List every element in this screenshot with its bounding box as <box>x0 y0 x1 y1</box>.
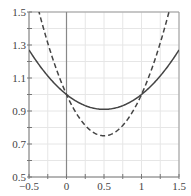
y-tick-label: 0.7 <box>12 138 26 150</box>
y-tick-label: 1.1 <box>12 72 26 84</box>
y-tick-label: 0.9 <box>12 105 26 117</box>
x-tick-label: 0 <box>64 180 70 192</box>
x-tick-label: 0.5 <box>97 180 111 192</box>
y-tick-label: 1.3 <box>12 39 26 51</box>
x-tick-label: 1 <box>139 180 145 192</box>
y-tick-label: 1.5 <box>12 6 26 18</box>
y-tick-label: 0.5 <box>12 171 26 183</box>
x-tick-label: 1.5 <box>172 180 186 192</box>
chart: −0.500.511.50.50.70.91.11.31.5 <box>0 0 191 196</box>
